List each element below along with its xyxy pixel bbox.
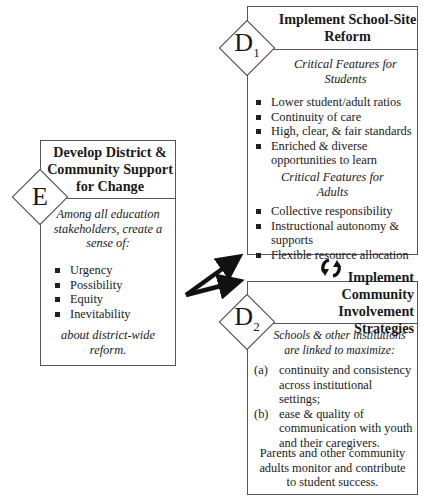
connectors — [0, 0, 426, 502]
cycle-arrows-icon — [321, 260, 341, 276]
